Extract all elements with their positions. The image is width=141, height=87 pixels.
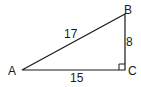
vertex-c-label: C [128,64,137,78]
side-bc-label: 8 [126,35,133,49]
triangle-abc [22,14,125,70]
side-ab-label: 17 [64,27,78,41]
vertex-b-label: B [124,3,132,17]
right-angle-marker [119,64,125,70]
triangle-diagram: A B C 17 8 15 [0,0,141,87]
side-ac-label: 15 [70,71,84,85]
vertex-a-label: A [8,64,16,78]
